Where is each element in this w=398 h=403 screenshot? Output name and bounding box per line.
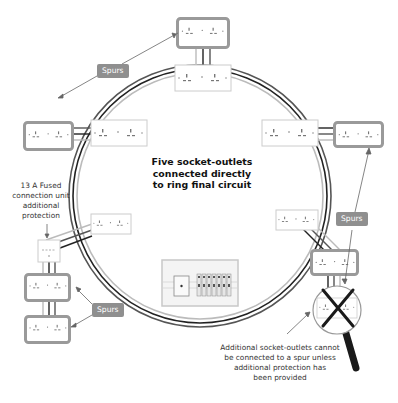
- spur-socket-left: [25, 123, 73, 150]
- spur-note: Additional socket-outlets cannot be conn…: [210, 343, 350, 383]
- title-line-3: to ring final circuit: [140, 179, 264, 191]
- note-line-4: been provided: [210, 373, 350, 383]
- spur-socket-lower-right: [312, 251, 358, 275]
- fcu-label-line-1: 13 A Fused: [4, 181, 78, 191]
- spur-socket-top: [178, 19, 229, 48]
- spurs-badge-top: Spurs: [97, 64, 129, 78]
- fcu-label: 13 A Fused connection unit additional pr…: [4, 181, 78, 221]
- ring-socket-lower-right: [276, 210, 318, 230]
- ring-socket-left: [91, 120, 147, 146]
- spur-socket-lower-left-1: [26, 275, 70, 301]
- title-line-1: Five socket-outlets: [140, 156, 264, 168]
- consumer-unit: [162, 260, 238, 306]
- diagram-title: Five socket-outlets connected directly t…: [140, 156, 264, 191]
- note-line-3: additional protection has: [210, 363, 350, 373]
- spurs-badge-right: Spurs: [336, 212, 368, 226]
- note-line-2: be connected to a spur unless: [210, 353, 350, 363]
- fcu-label-line-2: connection unit: [4, 191, 78, 201]
- note-line-1: Additional socket-outlets cannot: [210, 343, 350, 353]
- spur-socket-right: [335, 123, 383, 147]
- ring-socket-outlets: [91, 65, 318, 234]
- fcu-label-line-4: protection: [4, 211, 78, 221]
- spurs-badge-lower-left: Spurs: [92, 303, 124, 317]
- ring-socket-lower-left: [91, 214, 131, 234]
- ring-socket-top: [175, 65, 231, 91]
- title-line-2: connected directly: [140, 168, 264, 180]
- fcu-label-line-3: additional: [4, 201, 78, 211]
- ring-socket-right: [262, 120, 318, 146]
- spur-socket-lower-left-2: [26, 317, 70, 343]
- fused-connection-unit: [38, 240, 60, 262]
